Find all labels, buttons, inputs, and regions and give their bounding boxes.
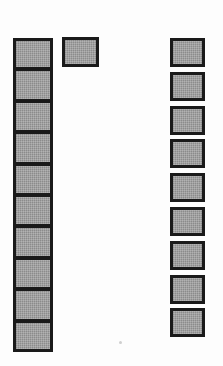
- scan-speck-icon: [119, 341, 122, 344]
- block-cell[interactable]: [170, 72, 205, 101]
- block-cell[interactable]: [170, 308, 205, 337]
- block-cell[interactable]: [170, 106, 205, 135]
- block-cell[interactable]: [170, 275, 205, 304]
- block-cell[interactable]: [170, 241, 205, 270]
- block-cell[interactable]: [170, 38, 205, 67]
- block-cell[interactable]: [170, 139, 205, 168]
- block-cell[interactable]: [170, 173, 205, 202]
- diagram-canvas: [0, 0, 223, 366]
- cell-group-right-column: [0, 0, 223, 366]
- block-cell[interactable]: [170, 207, 205, 236]
